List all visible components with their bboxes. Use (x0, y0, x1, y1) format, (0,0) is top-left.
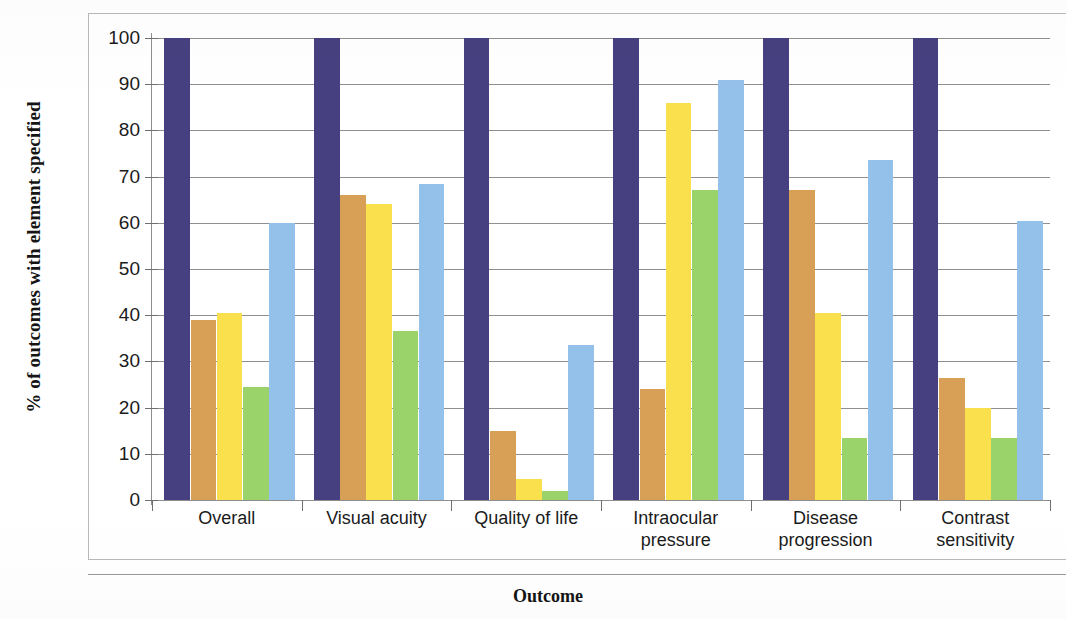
bar (340, 195, 366, 500)
x-axis-category-label: Quality of life (441, 508, 611, 530)
bar (243, 387, 269, 500)
bar (789, 190, 815, 500)
bar (868, 160, 894, 500)
bar (640, 389, 666, 500)
y-axis-tick-label: 60 (92, 213, 140, 232)
y-axis-tick-label: 0 (92, 490, 140, 509)
x-axis-category-label-line: Visual acuity (292, 508, 462, 530)
bar (164, 38, 190, 500)
bar (366, 204, 392, 500)
bar (217, 313, 243, 500)
y-axis-tick-label: 70 (92, 167, 140, 186)
bar (939, 378, 965, 500)
y-axis-tick-label: 10 (92, 444, 140, 463)
bar (613, 38, 639, 500)
y-axis-tick-label: 40 (92, 305, 140, 324)
y-axis-tick-label: 90 (92, 74, 140, 93)
y-axis-tick-label: 30 (92, 351, 140, 370)
chart-bottom-rule (88, 574, 1066, 575)
x-axis-title: Outcome (88, 586, 1008, 607)
bar (842, 438, 868, 500)
bar (314, 38, 340, 500)
x-axis-category-label-line: Intraocular (591, 508, 761, 530)
y-axis-title: % of outcomes with element specified (23, 37, 45, 477)
bar (692, 190, 718, 500)
bar (1017, 221, 1043, 501)
bar (718, 80, 744, 500)
x-axis-category-label: Contrastsensitivity (890, 508, 1060, 552)
bar (516, 479, 542, 500)
x-axis-category-label-line: Contrast (890, 508, 1060, 530)
bar (965, 408, 991, 500)
bar (666, 103, 692, 500)
bar (393, 331, 419, 500)
bar (419, 184, 445, 500)
bar (913, 38, 939, 500)
x-axis-category-label: Intraocularpressure (591, 508, 761, 552)
bar (991, 438, 1017, 500)
x-axis-category-label-line: sensitivity (890, 530, 1060, 552)
x-axis-category-label-line: pressure (591, 530, 761, 552)
bar (763, 38, 789, 500)
y-axis-tick-label: 100 (92, 28, 140, 47)
x-axis-category-label: Diseaseprogression (741, 508, 911, 552)
x-axis-category-label: Overall (142, 508, 312, 530)
plot-area (152, 38, 1050, 500)
y-axis-tick-label: 20 (92, 398, 140, 417)
bar (464, 38, 490, 500)
y-axis-tick-label: 80 (92, 120, 140, 139)
x-axis-category-label-line: Overall (142, 508, 312, 530)
y-axis-tick-label: 50 (92, 259, 140, 278)
x-axis-category-label-line: Quality of life (441, 508, 611, 530)
bar (815, 313, 841, 500)
bar-chart-figure: % of outcomes with element specified Out… (0, 0, 1066, 619)
bar (269, 223, 295, 500)
x-axis-category-label-line: Disease (741, 508, 911, 530)
bar (542, 491, 568, 500)
bar (191, 320, 217, 500)
x-axis-category-label-line: progression (741, 530, 911, 552)
bar (490, 431, 516, 500)
x-axis-category-label: Visual acuity (292, 508, 462, 530)
bar (568, 345, 594, 500)
